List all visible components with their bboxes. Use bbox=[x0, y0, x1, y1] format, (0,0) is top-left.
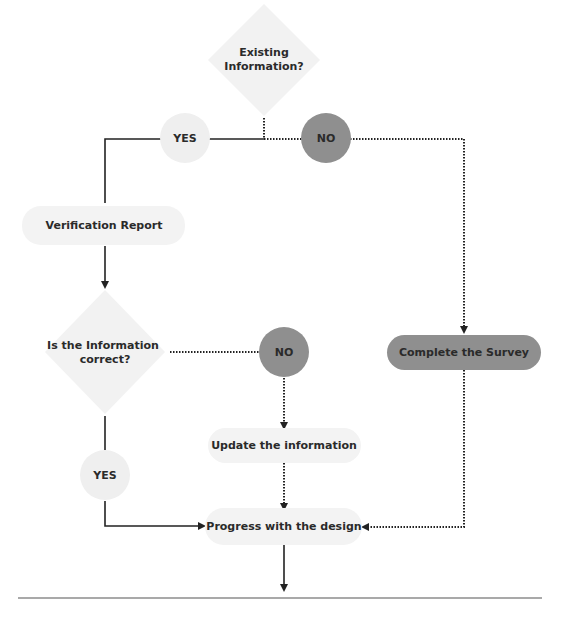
edge-yes2-progress bbox=[105, 501, 202, 526]
node-label-line2: correct? bbox=[80, 353, 131, 366]
node-yes-1: YES bbox=[160, 113, 210, 163]
node-label: Progress with the design bbox=[206, 520, 361, 533]
node-no-1: NO bbox=[301, 113, 351, 163]
node-label: YES bbox=[92, 469, 116, 482]
node-info-correct: Is the Information correct? bbox=[45, 290, 165, 414]
node-label: Complete the Survey bbox=[399, 346, 529, 359]
node-label: NO bbox=[317, 132, 336, 145]
node-label-line2: Information? bbox=[224, 60, 303, 73]
node-existing-information: Existing Information? bbox=[208, 4, 320, 116]
node-update-information: Update the information bbox=[208, 428, 361, 463]
node-complete-survey: Complete the Survey bbox=[387, 335, 541, 370]
flowchart-canvas: Existing Information? YES NO Verificatio… bbox=[0, 0, 564, 618]
node-label: NO bbox=[275, 346, 294, 359]
node-progress-design: Progress with the design bbox=[205, 508, 362, 545]
edge-no1-survey bbox=[350, 139, 464, 330]
node-no-2: NO bbox=[259, 327, 309, 377]
node-verification-report: Verification Report bbox=[22, 206, 185, 245]
edge-yes1-verification bbox=[105, 139, 161, 203]
node-label: Update the information bbox=[211, 439, 357, 452]
node-label: YES bbox=[172, 132, 196, 145]
diamond-shape bbox=[45, 290, 165, 414]
node-yes-2: YES bbox=[80, 450, 130, 500]
node-label: Verification Report bbox=[46, 219, 163, 232]
node-label-line1: Is the Information bbox=[47, 339, 159, 352]
edge-survey-progress bbox=[365, 370, 464, 527]
node-label-line1: Existing bbox=[239, 46, 289, 59]
